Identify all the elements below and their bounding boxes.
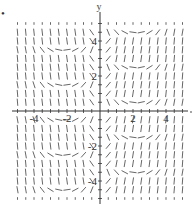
slope-segment (157, 152, 158, 158)
slope-segment (141, 55, 142, 61)
slope-segment (106, 179, 110, 184)
slope-segment (25, 29, 26, 35)
slope-segment (25, 38, 26, 44)
slope-segment (174, 29, 175, 35)
slope-segment (58, 125, 59, 131)
item-bullet: • (1, 7, 5, 19)
slope-segment (116, 90, 117, 96)
slope-segment (124, 55, 125, 61)
slope-segment (67, 38, 68, 44)
slope-segment (33, 152, 35, 158)
slope-segment (149, 55, 150, 61)
slope-segment (34, 73, 35, 79)
slope-segment (42, 169, 43, 175)
y-tick-label: 2 (92, 70, 98, 82)
slope-segment (64, 154, 70, 155)
slope-segment (157, 55, 158, 61)
slope-segment (83, 64, 84, 70)
slope-segment (107, 29, 109, 35)
slope-segment (25, 55, 26, 61)
slope-segment (106, 144, 110, 149)
slope-segment (141, 73, 142, 79)
slope-segment (25, 82, 26, 88)
slope-segment (72, 188, 78, 191)
slope-segment (83, 134, 84, 140)
slope-segment (130, 67, 136, 68)
slope-segment (141, 178, 142, 184)
slope-segment (25, 152, 26, 158)
slope-segment (116, 143, 117, 149)
slope-segment (42, 55, 43, 61)
slope-segment (107, 99, 109, 105)
slope-segment (122, 171, 128, 174)
slope-segment (182, 152, 183, 158)
slope-segment (64, 49, 70, 50)
slope-segment (83, 90, 84, 96)
slope-segment (174, 169, 175, 175)
slope-segment (132, 90, 133, 96)
slope-segment (116, 160, 117, 166)
slope-segment (138, 32, 144, 33)
slope-segment (174, 160, 175, 166)
slope-segment (157, 125, 158, 131)
slope-segment (174, 125, 175, 131)
slope-segment (149, 38, 150, 44)
slope-segment (116, 152, 117, 158)
slope-segment (67, 64, 68, 70)
slope-segment (166, 73, 167, 79)
y-tick-label: -2 (88, 140, 97, 152)
slope-segment (156, 100, 160, 105)
slope-segment (56, 154, 62, 155)
slope-segment (90, 161, 94, 166)
slope-segment (67, 134, 68, 140)
slope-segment (106, 152, 110, 157)
slope-segment (25, 134, 26, 140)
slope-segment (17, 117, 18, 123)
slope-segment (141, 90, 142, 96)
slope-segment (157, 38, 158, 44)
slope-segment (72, 83, 78, 86)
slope-segment (34, 178, 35, 184)
slope-segment (58, 169, 59, 175)
slope-segment (116, 117, 117, 123)
slope-segment (132, 38, 133, 44)
slope-segment (67, 29, 68, 35)
slope-segment (34, 29, 35, 35)
slope-segment (166, 125, 167, 131)
x-tick-label: 2 (130, 112, 136, 124)
slope-segment (64, 189, 70, 190)
slope-segment (130, 172, 136, 173)
slope-segment (67, 55, 68, 61)
slope-segment (83, 160, 84, 166)
slope-segment (122, 66, 128, 69)
slope-segment (166, 90, 167, 96)
slope-segment (17, 73, 18, 79)
x-tick-label: -4 (29, 112, 39, 124)
slope-segment (132, 73, 133, 79)
slope-segment (48, 153, 53, 156)
slope-segment (138, 172, 144, 173)
slope-segment (157, 90, 158, 96)
slope-segment (42, 160, 43, 166)
slope-segment (34, 134, 35, 140)
slope-segment (34, 169, 35, 175)
slope-segment (17, 125, 18, 131)
slope-segment (149, 143, 150, 149)
slope-segment (141, 125, 142, 131)
slope-segment (25, 178, 26, 184)
slope-segment (147, 101, 152, 104)
slope-segment (25, 187, 26, 193)
slope-segment (75, 64, 76, 70)
slope-segment (174, 187, 175, 193)
slope-segment (42, 90, 43, 96)
slope-segment (114, 135, 118, 140)
slope-segment (182, 117, 183, 123)
slope-segment (67, 143, 68, 149)
slope-segment (174, 143, 175, 149)
slope-segment (141, 187, 142, 193)
slope-segment (72, 48, 78, 51)
slope-segment (58, 55, 59, 61)
slope-segment (116, 73, 117, 79)
slope-segment (182, 187, 183, 193)
slope-segment (58, 64, 59, 70)
